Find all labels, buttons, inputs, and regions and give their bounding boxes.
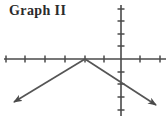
left-ray [14, 59, 85, 102]
y-axis [118, 5, 125, 116]
function-graph [14, 59, 156, 105]
coordinate-plane [0, 0, 167, 118]
graph-figure: Graph II [0, 0, 167, 118]
